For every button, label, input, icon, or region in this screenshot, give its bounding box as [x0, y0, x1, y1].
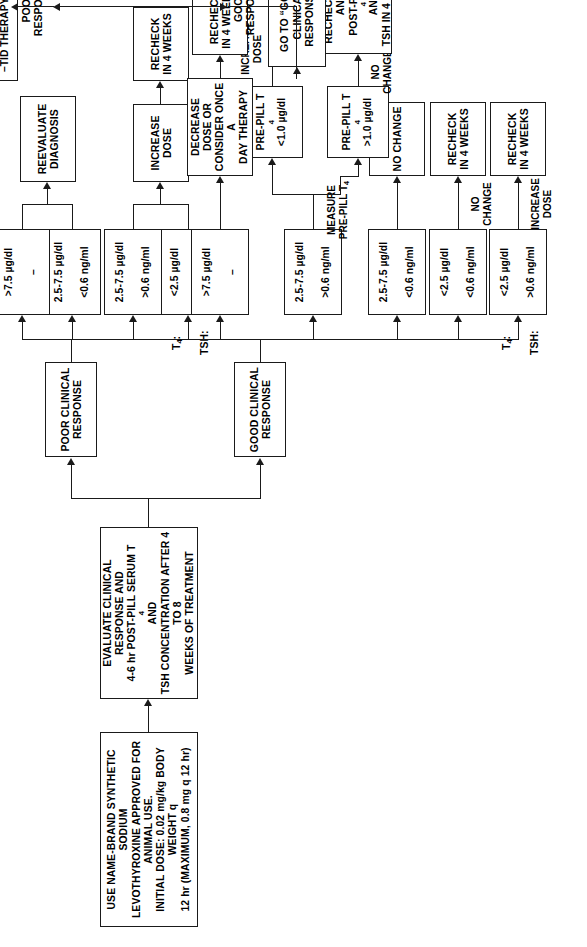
- arrowhead-recheck-4-weeks-good-c: [216, 55, 224, 62]
- node-poor-value-3: 2.5-7.5 µg/dl <0.6 ng/ml: [43, 229, 101, 315]
- arrowhead-poor-v3: [68, 315, 76, 322]
- arrowhead-prepill-lt: [268, 158, 276, 165]
- edge-good-to-fan: [260, 340, 261, 362]
- edge-poor-merge-reevaluate-out: [47, 189, 48, 205]
- node-start-text: USE NAME-BRAND SYNTHETIC SODIUMLEVOTHYRO…: [106, 736, 192, 923]
- edge-label-no-change: NO CHANGE: [470, 177, 493, 231]
- arrowhead-increase-dose: [156, 182, 164, 189]
- edge-label-increase-dose: INCREASE DOSE: [530, 177, 553, 231]
- node-decrease-dose-text: DECREASE DOSE ORCONSIDER ONCE ADAY THERA…: [190, 82, 251, 172]
- node-poor-value-4: >7.5 µg/dl –: [0, 229, 50, 315]
- node-recheck-4-weeks-good-b-text: RECHECKIN 4 WEEKS: [446, 108, 471, 170]
- good-value-4-tsh: >0.6 ng/ml: [320, 246, 332, 298]
- flowchart-page: USE NAME-BRAND SYNTHETIC SODIUMLEVOTHYRO…: [0, 0, 587, 947]
- poor-value-4-tsh: –: [28, 269, 40, 275]
- node-good-value-2: <2.5 µg/dl <0.6 ng/ml: [429, 229, 487, 315]
- edge-good-v1: [518, 322, 519, 340]
- row-label-tsh-good: TSH:: [528, 331, 540, 356]
- good-value-4-t4: 2.5-7.5 µg/dl: [294, 242, 306, 302]
- edge-good-v2: [458, 322, 459, 340]
- arrowhead-consider: [11, 3, 18, 11]
- edge-good-v3: [397, 322, 398, 340]
- edge-label-poor-response: POOR RESPONSE: [20, 0, 44, 49]
- arrowhead-recheck-pre-post-left: [354, 54, 362, 61]
- edge-poor-v3: [72, 322, 73, 340]
- good-value-1-t4: <2.5 µg/dl: [499, 248, 511, 296]
- edge-prepill-gt-out: [358, 61, 359, 86]
- edge-poor-v2-out: [133, 205, 134, 229]
- edge-prepill-fork-vertical: [272, 194, 340, 195]
- good-value-3-t4: 2.5-7.5 µg/dl: [378, 242, 390, 302]
- node-reevaluate-diagnosis: REEVALUATEDIAGNOSIS: [20, 96, 76, 182]
- node-no-change-text: NO CHANGE: [391, 106, 403, 171]
- edge-to-prepill-gt: [340, 177, 341, 195]
- arrowhead-good-v4: [309, 315, 317, 322]
- node-poor-clinical-response: POOR CLINICALRESPONSE: [45, 362, 97, 457]
- arrowhead-poor-v4: [18, 315, 26, 322]
- edge-poor-response-to-consider: [18, 6, 54, 7]
- arrowhead-poor-response: [53, 3, 60, 11]
- node-recheck-pre-post-pill-text: RECHECK PRE- ANDPOST-PILL T4 ANDTSH IN 4…: [323, 0, 392, 50]
- edge-evaluate-trunk: [148, 499, 149, 527]
- row-label-t4-poor: T4:: [170, 336, 184, 350]
- edge-increase-to-recheck: [160, 88, 161, 104]
- edge-label-measure-prepill: MEASUREPRE-PILL T4: [326, 173, 350, 247]
- node-prepill-t4-lt-1-line2: <1.0 µg/dl: [276, 98, 288, 146]
- edge-start-to-evaluate: [148, 706, 149, 732]
- node-good-value-1: <2.5 µg/dl >0.6 ng/ml: [489, 229, 547, 315]
- edge-poor-to-fan: [71, 340, 72, 362]
- edge-poor-v4: [22, 322, 23, 340]
- node-good-value-5: >7.5 µg/dl –: [191, 229, 249, 315]
- arrowhead-good-response: [220, 3, 227, 11]
- node-prepill-t4-lt-1-line1: PRE-PILL T4: [255, 94, 276, 151]
- edge-poor-v3-out: [72, 205, 73, 229]
- arrowhead-good-v3: [393, 315, 401, 322]
- poor-value-2-t4: 2.5-7.5 µg/dl: [114, 242, 126, 302]
- poor-value-2-tsh: >0.6 ng/ml: [140, 246, 152, 298]
- good-value-3-tsh: <0.6 ng/ml: [404, 246, 416, 298]
- edge-good-v3-out: [397, 183, 398, 229]
- edge-to-prepill-lt: [272, 165, 273, 195]
- node-decrease-dose: DECREASE DOSE ORCONSIDER ONCE ADAY THERA…: [187, 78, 253, 176]
- node-good-value-3: 2.5-7.5 µg/dl <0.6 ng/ml: [368, 229, 426, 315]
- flowchart-stage: USE NAME-BRAND SYNTHETIC SODIUMLEVOTHYRO…: [0, 0, 587, 947]
- node-recheck-4-weeks-good-b: RECHECKIN 4 WEEKS: [430, 102, 486, 176]
- row-label-tsh-poor: TSH:: [198, 331, 210, 356]
- node-poor-value-2: 2.5-7.5 µg/dl >0.6 ng/ml: [104, 229, 162, 315]
- arrowhead-good-v5: [216, 315, 224, 322]
- arrowhead-start-to-evaluate: [144, 699, 152, 706]
- edge-good-v2-out: [458, 183, 459, 229]
- edge-evaluate-split-vertical: [71, 498, 261, 499]
- node-recheck-4-weeks-poor: RECHECKIN 4 WEEKS: [133, 7, 189, 81]
- node-consider: CONSIDER:–INCREASING DOSE–CONCURRENT DIS…: [0, 0, 18, 81]
- arrowhead-reevaluate-diagnosis: [43, 182, 51, 189]
- good-value-5-tsh: –: [227, 269, 239, 275]
- node-recheck-4-weeks-good-a-text: RECHECKIN 4 WEEKS: [506, 108, 531, 170]
- edge-poor-v1-out: [188, 205, 189, 229]
- edge-to-prepill-gt-h2: [358, 165, 359, 177]
- edge-poor-v4-out: [22, 205, 23, 229]
- poor-value-4-t4: >7.5 µg/dl: [3, 248, 15, 296]
- arrowhead-poor-v2: [129, 315, 137, 322]
- poor-value-1-t4: <2.5 µg/dl: [169, 248, 181, 296]
- edge-good-fan-vertical: [185, 339, 519, 340]
- node-good-clinical-response: GOOD CLINICALRESPONSE: [234, 362, 286, 457]
- edge-good-v5-out: [220, 183, 221, 229]
- good-value-2-t4: <2.5 µg/dl: [439, 248, 451, 296]
- edge-poor-v2: [133, 322, 134, 340]
- edge-good-v1-out: [518, 183, 519, 229]
- good-value-5-t4: >7.5 µg/dl: [201, 248, 213, 296]
- node-increase-dose-poor-text: INCREASEDOSE: [149, 115, 174, 170]
- edge-good-v5: [220, 322, 221, 340]
- node-reevaluate-diagnosis-text: REEVALUATEDIAGNOSIS: [36, 104, 61, 175]
- arrowhead-decrease-dose: [216, 176, 224, 183]
- node-recheck-4-weeks-poor-text: RECHECKIN 4 WEEKS: [149, 13, 174, 75]
- edge-to-poor-clinical-response: [71, 465, 72, 499]
- poor-value-3-tsh: <0.6 ng/ml: [79, 246, 91, 298]
- arrowhead-prepill-gt: [354, 158, 362, 165]
- edge-response-fan-trunk: [60, 6, 220, 7]
- node-recheck-pre-post-pill: RECHECK PRE- ANDPOST-PILL T4 ANDTSH IN 4…: [324, 0, 392, 54]
- arrowhead-good-v2-recheck: [454, 176, 462, 183]
- good-value-1-tsh: >0.6 ng/ml: [525, 246, 537, 298]
- edge-to-prepill-gt-v: [340, 176, 358, 177]
